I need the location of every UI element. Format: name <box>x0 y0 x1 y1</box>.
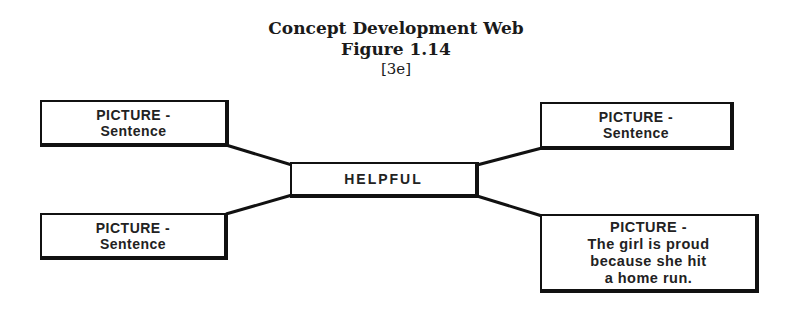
node-top-left-heading: PICTURE - <box>96 107 171 123</box>
connector-bottom-left <box>226 195 292 214</box>
center-concept-box: HELPFUL <box>290 162 479 198</box>
node-bottom-right-heading: PICTURE - <box>610 219 687 236</box>
node-top-left-text: Sentence <box>100 123 166 139</box>
connector-bottom-right <box>477 196 542 216</box>
connector-top-right <box>477 148 542 165</box>
node-bottom-right-text-1: The girl is proud <box>587 236 709 253</box>
node-bottom-left-text: Sentence <box>100 236 166 252</box>
center-concept-label: HELPFUL <box>344 171 423 187</box>
node-top-left: PICTURE - Sentence <box>40 100 229 147</box>
node-top-right-text: Sentence <box>603 125 669 141</box>
node-bottom-right-text-2: because she hit <box>590 253 706 270</box>
node-bottom-right: PICTURE - The girl is proud because she … <box>540 214 759 293</box>
node-bottom-right-text-3: a home run. <box>605 270 693 287</box>
node-top-right-heading: PICTURE - <box>599 109 674 125</box>
connector-top-left <box>226 145 292 165</box>
node-bottom-left-heading: PICTURE - <box>96 220 171 236</box>
node-top-right: PICTURE - Sentence <box>540 102 734 150</box>
node-bottom-left: PICTURE - Sentence <box>40 213 228 260</box>
